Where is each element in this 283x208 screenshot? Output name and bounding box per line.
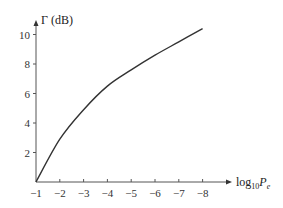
y-tick-label: 4 <box>25 117 31 129</box>
y-tick-label: 6 <box>25 88 31 100</box>
x-tick-label: −7 <box>173 187 185 199</box>
x-tick-label: −2 <box>54 187 66 199</box>
axes <box>34 20 233 185</box>
x-tick-label: −3 <box>78 187 90 199</box>
chart: −1−2−3−4−5−6−7−8 246810 Γ (dB) log10Pe <box>0 0 283 208</box>
gamma-curve <box>36 29 203 182</box>
y-tick-label: 8 <box>25 58 31 70</box>
y-axis-arrow-icon <box>34 20 39 26</box>
x-tick-label: −5 <box>125 187 137 199</box>
x-axis-label: log10Pe <box>236 175 271 191</box>
x-tick-label: −6 <box>149 187 161 199</box>
y-ticks: 246810 <box>19 29 36 159</box>
x-tick-label: −4 <box>102 187 114 199</box>
x-tick-label: −1 <box>30 187 42 199</box>
x-tick-label: −8 <box>197 187 209 199</box>
y-tick-label: 10 <box>19 29 31 41</box>
y-axis-label: Γ (dB) <box>41 13 73 27</box>
x-axis-arrow-icon <box>226 180 232 185</box>
y-tick-label: 2 <box>25 147 31 159</box>
